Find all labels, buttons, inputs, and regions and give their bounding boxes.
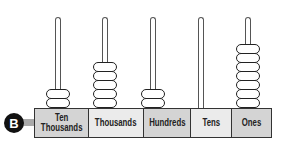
column-ones: Ones bbox=[232, 109, 271, 137]
rod bbox=[198, 17, 204, 108]
bead bbox=[236, 53, 260, 63]
marker-label: B bbox=[9, 116, 18, 131]
column-label: Thousands bbox=[95, 118, 137, 128]
bead bbox=[93, 80, 117, 90]
bead bbox=[236, 89, 260, 99]
abacus-diagram: B Ten Thousands Thousands Hundreds Tens … bbox=[0, 0, 288, 143]
bead bbox=[236, 71, 260, 81]
bead bbox=[141, 98, 165, 108]
column-tens: Tens bbox=[191, 109, 231, 137]
bead bbox=[93, 62, 117, 72]
place-value-base: Ten Thousands Thousands Hundreds Tens On… bbox=[34, 108, 272, 138]
column-label: Hundreds bbox=[149, 118, 185, 128]
bead bbox=[141, 89, 165, 99]
bead bbox=[236, 44, 260, 54]
bead bbox=[93, 98, 117, 108]
bead bbox=[236, 80, 260, 90]
bead bbox=[93, 89, 117, 99]
bead bbox=[46, 89, 70, 99]
marker-badge: B bbox=[4, 113, 24, 133]
column-label: Tens bbox=[202, 118, 220, 128]
column-hundreds: Hundreds bbox=[144, 109, 192, 137]
bead bbox=[93, 71, 117, 81]
bead bbox=[236, 62, 260, 72]
bead bbox=[236, 98, 260, 108]
column-label: Ten Thousands bbox=[41, 113, 83, 133]
bead bbox=[46, 98, 70, 108]
column-ten-thousands: Ten Thousands bbox=[35, 109, 89, 137]
column-thousands: Thousands bbox=[89, 109, 143, 137]
column-label: Ones bbox=[242, 118, 262, 128]
